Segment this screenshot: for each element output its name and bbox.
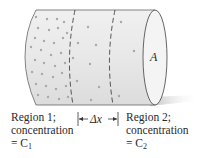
region2-value-sub: 2 [143,142,147,151]
region1-concentration: concentration [11,124,74,137]
distance-label: Δx [90,113,102,126]
region1-value-prefix: = C [11,137,28,149]
region2-concentration: concentration [126,124,189,137]
region1-value-sub: 1 [28,142,32,151]
region2-value-prefix: = C [126,137,143,149]
region1-value: = C1 [11,137,32,153]
cylinder-body [25,10,155,105]
region2-value: = C2 [126,137,147,153]
region2-title: Region 2; [126,111,171,124]
region1-title: Region 1; [11,111,56,124]
area-label: A [150,51,157,64]
